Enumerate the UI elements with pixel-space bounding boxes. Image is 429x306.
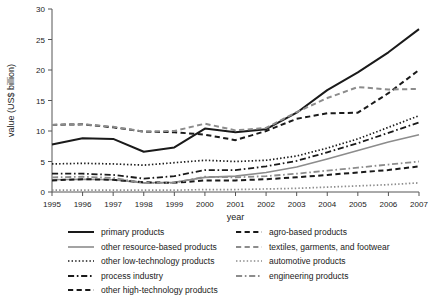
legend-item[interactable]: engineering products: [236, 269, 429, 284]
legend-item-label: agro-based products: [269, 228, 347, 237]
legend-item-label: engineering products: [269, 272, 348, 281]
legend-item-label: textiles, garments, and footwear: [269, 243, 389, 252]
x-tick-label: 1995: [43, 200, 61, 209]
y-tick-label: 20: [36, 66, 45, 75]
legend-swatch-icon: [68, 242, 94, 252]
legend-item[interactable]: other low-technology products: [68, 254, 200, 269]
x-tick-label: 2003: [288, 200, 306, 209]
y-tick-label: 10: [36, 127, 45, 136]
legend-swatch-icon: [68, 285, 94, 295]
legend-item[interactable]: primary products: [68, 225, 200, 240]
legend-swatch-icon: [236, 271, 262, 281]
line-chart: 0510152025301995199619971998199920002001…: [0, 0, 429, 306]
x-tick-label: 2001: [227, 200, 245, 209]
legend-item[interactable]: process industry: [68, 269, 200, 284]
legend-column-left: primary productsother resource-based pro…: [0, 225, 200, 306]
x-tick-label: 2004: [318, 200, 336, 209]
legend-swatch-icon: [68, 271, 94, 281]
legend-item[interactable]: textiles, garments, and footwear: [236, 240, 429, 255]
legend-swatch-icon: [236, 227, 262, 237]
plot-area: 0510152025301995199619971998199920002001…: [0, 0, 429, 222]
x-tick-label: 2005: [349, 200, 367, 209]
y-tick-label: 15: [36, 97, 45, 106]
x-tick-label: 1998: [135, 200, 153, 209]
x-tick-label: 2002: [257, 200, 275, 209]
series-line-7: [52, 183, 419, 190]
legend-swatch-icon: [68, 227, 94, 237]
legend-item[interactable]: automotive products: [236, 254, 429, 269]
legend-item-label: process industry: [101, 272, 163, 281]
y-axis-title: value (US$ billion): [6, 64, 16, 137]
legend-swatch-icon: [236, 256, 262, 266]
y-tick-label: 0: [41, 188, 46, 197]
x-tick-label: 2000: [196, 200, 214, 209]
legend-item-label: other low-technology products: [101, 257, 214, 266]
y-tick-label: 30: [36, 5, 45, 14]
legend-item[interactable]: other resource-based products: [68, 240, 200, 255]
legend-item[interactable]: agro-based products: [236, 225, 429, 240]
legend-item-label: automotive products: [269, 257, 346, 266]
y-tick-label: 25: [36, 36, 45, 45]
x-tick-label: 1999: [165, 200, 183, 209]
legend-swatch-icon: [236, 242, 262, 252]
legend-item-label: primary products: [101, 228, 164, 237]
chart-legend: primary productsother resource-based pro…: [0, 225, 429, 306]
x-tick-label: 2007: [410, 200, 428, 209]
series-line-0: [52, 29, 419, 152]
x-axis-title: year: [227, 212, 245, 222]
x-tick-label: 1997: [104, 200, 122, 209]
x-tick-label: 1996: [74, 200, 92, 209]
y-tick-label: 5: [41, 158, 46, 167]
series-line-6: [52, 87, 419, 132]
x-tick-label: 2006: [380, 200, 398, 209]
legend-swatch-icon: [68, 256, 94, 266]
legend-column-right: agro-based productstextiles, garments, a…: [200, 225, 429, 306]
legend-item[interactable]: other high-technology products: [68, 283, 200, 298]
chart-canvas: 0510152025301995199619971998199920002001…: [0, 0, 429, 222]
